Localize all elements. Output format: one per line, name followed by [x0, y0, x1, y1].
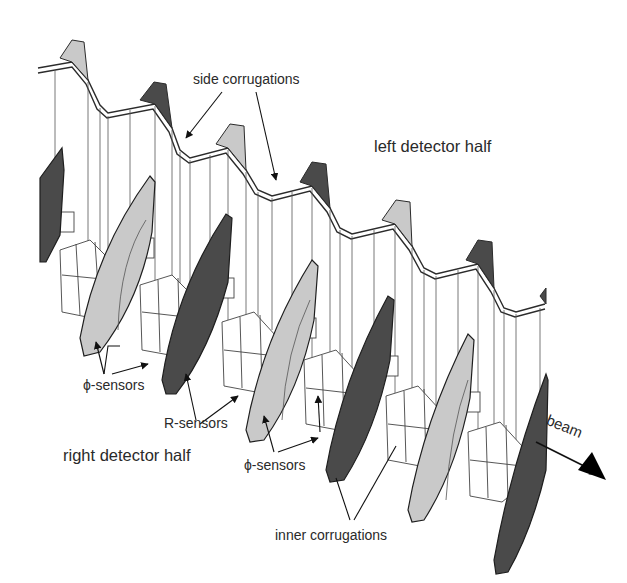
label-side-corrugations: side corrugations [193, 72, 300, 86]
rf-foil-diagram [0, 0, 627, 583]
label-left-detector-half: left detector half [374, 138, 491, 155]
sensor-blades [40, 148, 548, 574]
label-inner-corrugations: inner corrugations [275, 528, 387, 542]
label-phi-sensors-middle: ϕ-sensors [244, 458, 306, 472]
beam-arrow-head [578, 452, 606, 480]
label-right-detector-half: right detector half [63, 447, 191, 464]
label-phi-sensors-left: ϕ-sensors [83, 378, 145, 392]
label-r-sensors: R-sensors [164, 416, 228, 430]
r-sensor-blade [40, 148, 64, 262]
